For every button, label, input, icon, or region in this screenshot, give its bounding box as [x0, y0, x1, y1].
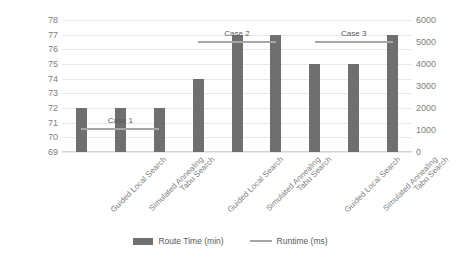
bar [309, 64, 320, 152]
bar [387, 35, 398, 152]
runtime-line-segment [315, 41, 393, 43]
y-axis-right-tick: 6000 [416, 15, 436, 25]
y-axis-left: 78777675747372717069 [18, 0, 58, 261]
gridline [62, 152, 412, 153]
y-axis-right-tick: 0 [416, 147, 421, 157]
category-axis: Guided Local SearchSimulated AnnealingTa… [62, 155, 412, 225]
legend-label: Runtime (ms) [277, 236, 328, 246]
case-group-label: Case 2 [224, 29, 249, 38]
y-axis-left-tick: 72 [48, 103, 58, 113]
y-axis-right-tick: 2000 [416, 103, 436, 113]
case-group-label: Case 3 [341, 29, 366, 38]
bar [154, 108, 165, 152]
chart-container: 78777675747372717069 6000500040003000200… [0, 0, 461, 261]
y-axis-right: 6000500040003000200010000 [416, 0, 460, 261]
bar [232, 35, 243, 152]
legend-item[interactable]: Runtime (ms) [250, 236, 328, 246]
y-axis-right-tick: 5000 [416, 37, 436, 47]
legend-item[interactable]: Route Time (min) [133, 236, 223, 246]
legend-bar-swatch-icon [133, 238, 153, 245]
bar [193, 79, 204, 152]
y-axis-left-tick: 77 [48, 30, 58, 40]
y-axis-left-tick: 76 [48, 44, 58, 54]
y-axis-left-tick: 71 [48, 118, 58, 128]
y-axis-right-tick: 4000 [416, 59, 436, 69]
bar [115, 108, 126, 152]
y-axis-right-tick: 1000 [416, 125, 436, 135]
y-axis-left-tick: 74 [48, 74, 58, 84]
legend-line-swatch-icon [250, 240, 272, 242]
y-axis-left-tick: 73 [48, 88, 58, 98]
y-axis-right-tick: 3000 [416, 81, 436, 91]
y-axis-left-tick: 69 [48, 147, 58, 157]
y-axis-left-tick: 75 [48, 59, 58, 69]
bar [76, 108, 87, 152]
bar [348, 64, 359, 152]
case-group-label: Case 1 [108, 116, 133, 125]
y-axis-left-tick: 78 [48, 15, 58, 25]
bar [270, 35, 281, 152]
y-axis-left-tick: 70 [48, 132, 58, 142]
chart-legend: Route Time (min)Runtime (ms) [0, 236, 461, 246]
runtime-line-segment [198, 41, 276, 43]
runtime-line-segment [81, 128, 159, 130]
legend-label: Route Time (min) [158, 236, 223, 246]
plot-area: Case 1Case 2Case 3 [62, 20, 412, 152]
gridline [62, 20, 412, 21]
